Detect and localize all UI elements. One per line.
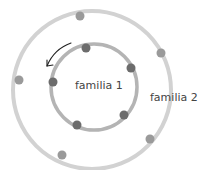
orbit-diagram: familia 1 familia 2 — [0, 0, 207, 170]
inner-ring-label: familia 1 — [75, 80, 123, 91]
outer-dot — [76, 12, 85, 21]
inner-dot — [120, 111, 129, 120]
inner-dot — [49, 78, 58, 87]
inner-dot — [73, 121, 82, 130]
outer-dot — [157, 49, 166, 58]
outer-ring-label: familia 2 — [150, 92, 198, 103]
inner-dot — [127, 64, 136, 73]
outer-dot — [15, 76, 24, 85]
outer-dot — [58, 151, 67, 160]
inner-dot — [82, 44, 91, 53]
outer-dot — [146, 135, 155, 144]
